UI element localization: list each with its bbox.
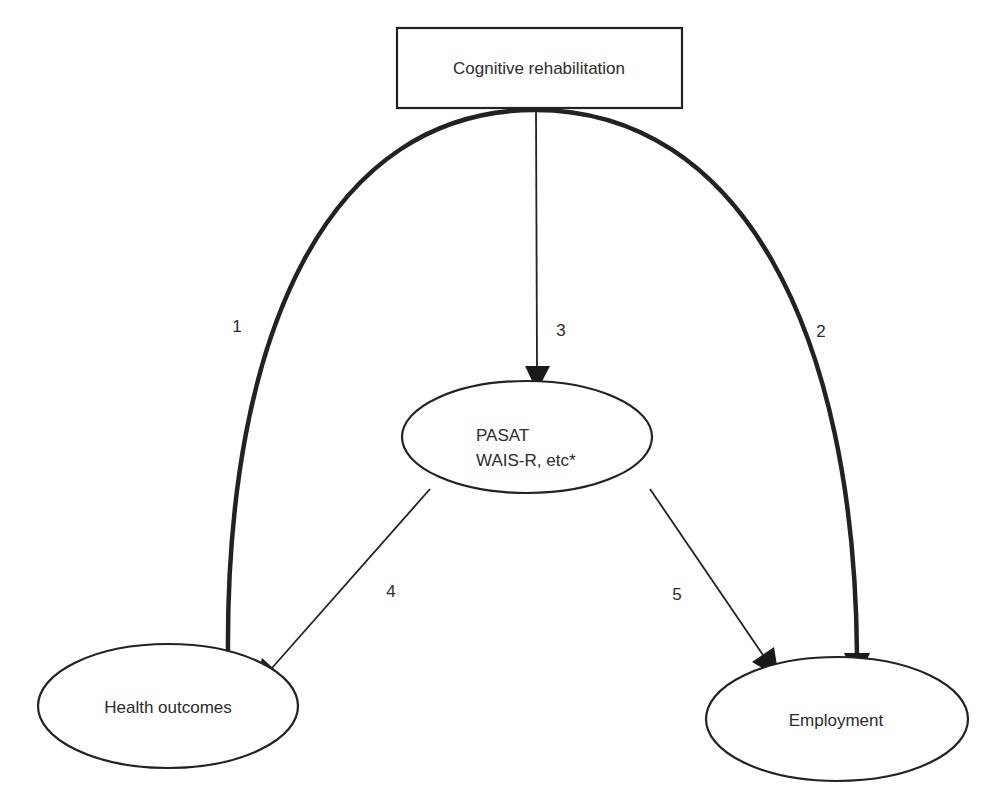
node-health-outcomes: Health outcomes xyxy=(38,644,298,768)
edge-label-2: 2 xyxy=(816,322,825,341)
path-diagram: Cognitive rehabilitation PASAT WAIS-R, e… xyxy=(0,0,995,803)
node-label-line2: WAIS-R, etc* xyxy=(476,451,576,470)
edge-label-1: 1 xyxy=(232,317,241,336)
edge-label-3: 3 xyxy=(556,321,565,340)
edge-label-4: 4 xyxy=(386,582,395,601)
edge-5-pasat-to-employment xyxy=(650,489,779,678)
node-label: Employment xyxy=(789,711,884,730)
node-pasat: PASAT WAIS-R, etc* xyxy=(402,381,652,493)
node-employment: Employment xyxy=(706,657,968,781)
node-label-line1: PASAT xyxy=(476,426,529,445)
node-label: Health outcomes xyxy=(104,698,232,717)
edge-4-pasat-to-health xyxy=(254,489,430,690)
edge-label-5: 5 xyxy=(672,585,681,604)
node-cognitive-rehabilitation: Cognitive rehabilitation xyxy=(397,28,682,108)
node-label: Cognitive rehabilitation xyxy=(453,59,625,78)
edge-3-cogrehab-to-pasat xyxy=(525,108,550,391)
